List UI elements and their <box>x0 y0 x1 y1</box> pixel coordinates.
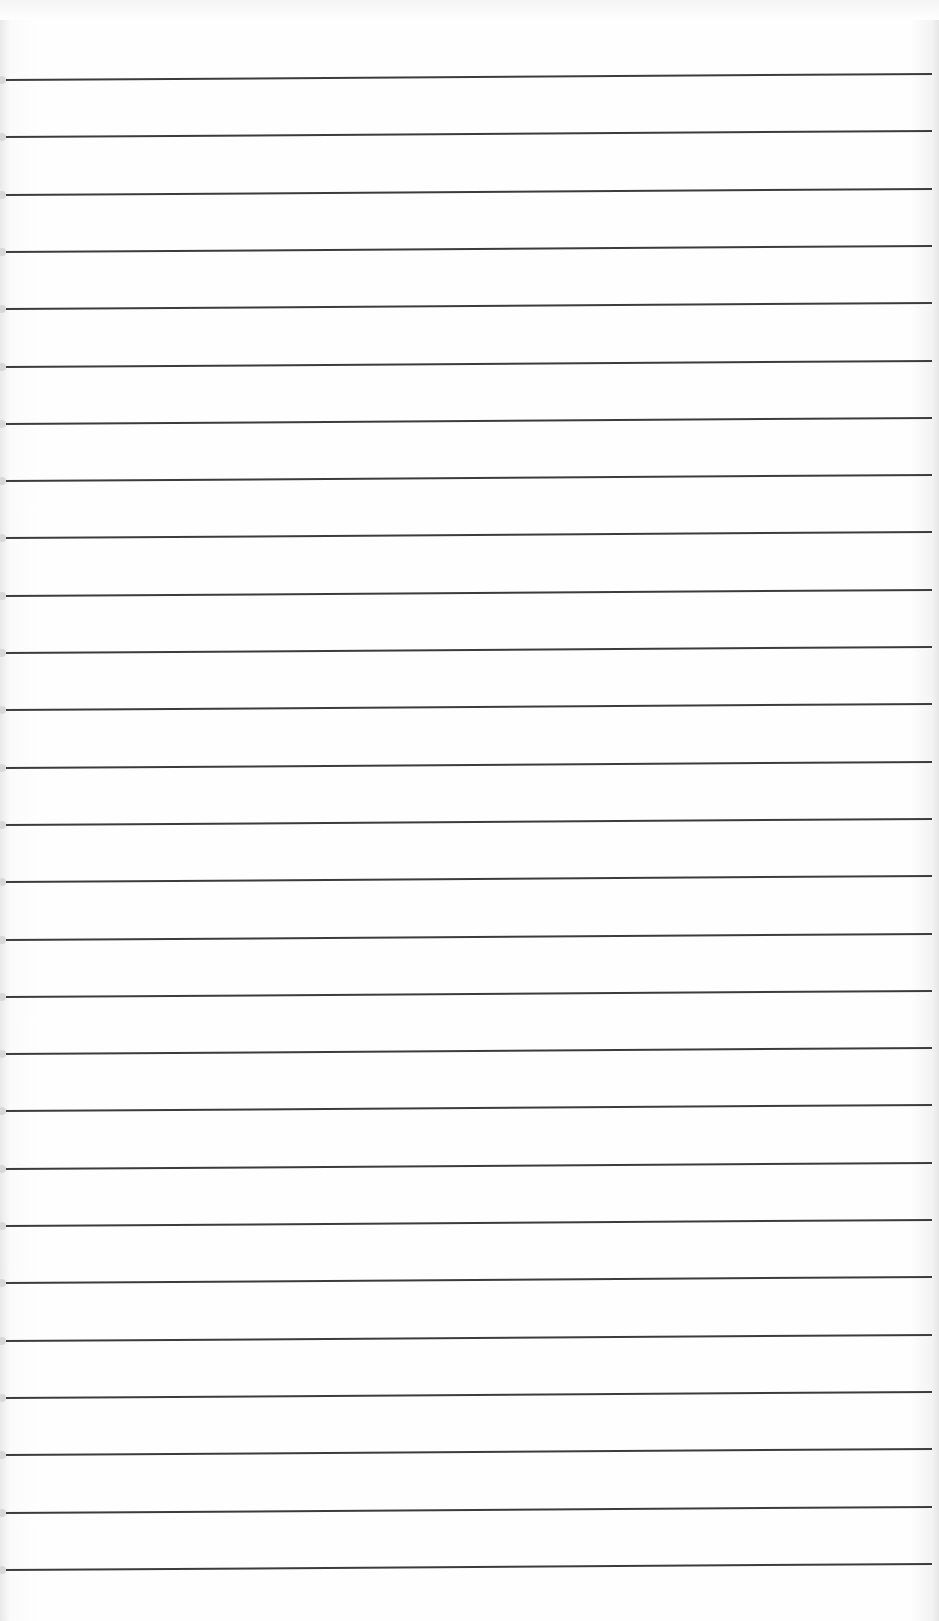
ruled-line <box>6 1391 932 1399</box>
line-end-mark <box>0 821 6 829</box>
ruled-line <box>6 302 932 310</box>
ruled-line <box>6 761 932 769</box>
ruled-line <box>6 589 932 597</box>
line-end-mark <box>0 133 6 141</box>
line-end-mark <box>0 1222 6 1230</box>
ruled-line <box>6 818 932 826</box>
line-end-mark <box>0 878 6 886</box>
line-end-mark <box>0 191 6 199</box>
ruled-line <box>6 990 932 998</box>
ruled-line <box>6 1162 932 1170</box>
ruled-line <box>6 933 932 941</box>
line-end-mark <box>0 764 6 772</box>
ruled-line <box>6 130 932 138</box>
line-end-mark <box>0 248 6 256</box>
line-end-mark <box>0 993 6 1001</box>
ruled-line <box>6 1047 932 1055</box>
ruled-line <box>6 1276 932 1284</box>
ruled-line <box>6 531 932 539</box>
ruled-line <box>6 875 932 883</box>
ruled-line <box>6 1506 932 1514</box>
top-shadow <box>0 0 939 20</box>
line-end-mark <box>0 76 6 84</box>
line-end-mark <box>0 1566 6 1574</box>
ruled-line <box>6 474 932 482</box>
line-end-mark <box>0 1279 6 1287</box>
line-end-mark <box>0 305 6 313</box>
line-end-mark <box>0 1107 6 1115</box>
ruled-line <box>6 703 932 711</box>
line-end-mark <box>0 534 6 542</box>
line-end-mark <box>0 649 6 657</box>
line-end-mark <box>0 1451 6 1459</box>
line-end-mark <box>0 1050 6 1058</box>
ruled-line <box>6 1219 932 1227</box>
ruled-line <box>6 417 932 425</box>
ruled-paper <box>0 0 939 1621</box>
ruled-line <box>6 360 932 368</box>
ruled-line <box>6 1104 932 1112</box>
line-end-mark <box>0 477 6 485</box>
line-end-mark <box>0 1337 6 1345</box>
ruled-line <box>6 1448 932 1456</box>
ruled-line <box>6 1563 932 1571</box>
line-end-mark <box>0 1165 6 1173</box>
line-end-mark <box>0 363 6 371</box>
ruled-line <box>6 73 932 81</box>
ruled-line <box>6 1334 932 1342</box>
line-end-mark <box>0 420 6 428</box>
ruled-line <box>6 245 932 253</box>
line-end-mark <box>0 592 6 600</box>
line-end-mark <box>0 1509 6 1517</box>
line-end-mark <box>0 706 6 714</box>
ruled-line <box>6 646 932 654</box>
line-end-mark <box>0 1394 6 1402</box>
ruled-line <box>6 188 932 196</box>
line-end-mark <box>0 936 6 944</box>
